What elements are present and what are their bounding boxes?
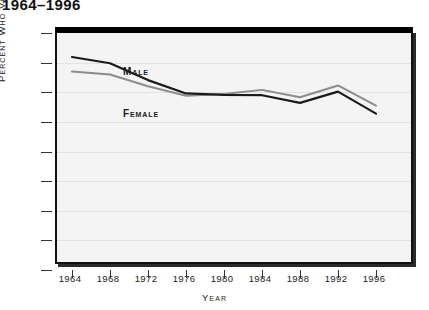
chart-title: 1964–1996 bbox=[2, 0, 81, 13]
y-axis-title: Percent Who Voted bbox=[0, 0, 7, 82]
y-tick bbox=[41, 240, 52, 241]
x-tick-label: 1996 bbox=[349, 273, 399, 284]
y-tick bbox=[41, 92, 52, 93]
y-tick bbox=[41, 152, 52, 153]
plot-frame-right-edge bbox=[413, 33, 416, 266]
y-tick bbox=[41, 211, 52, 212]
y-tick bbox=[41, 270, 52, 271]
y-tick bbox=[41, 63, 52, 64]
series-label-female: Female bbox=[123, 108, 159, 119]
plot-area: Male Female bbox=[55, 27, 413, 264]
x-axis-title: Year bbox=[0, 292, 429, 303]
plot-frame-bottom-edge bbox=[58, 264, 416, 267]
y-tick bbox=[41, 181, 52, 182]
series-line-male bbox=[72, 57, 376, 114]
chart-container: 1964–1996 Male Female 01020304050607080 … bbox=[0, 0, 429, 310]
series-line-female bbox=[72, 72, 376, 106]
y-tick bbox=[41, 122, 52, 123]
series-label-male: Male bbox=[123, 66, 149, 77]
series-lines bbox=[57, 33, 415, 270]
y-tick bbox=[41, 33, 52, 34]
